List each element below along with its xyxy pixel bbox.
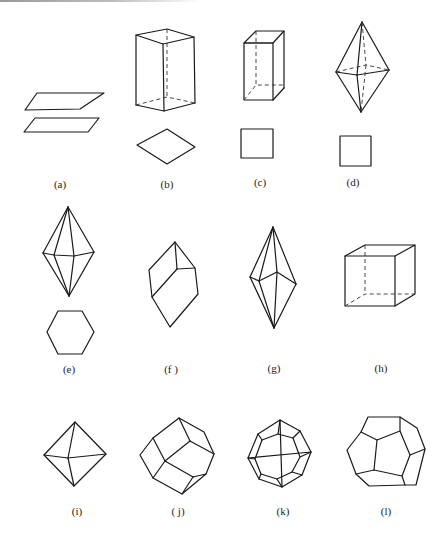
shape-a-pinacoid	[24, 93, 104, 132]
shape-l-pentagonal-dodecahedron	[347, 417, 425, 486]
shape-g-scalenohedron	[250, 227, 296, 328]
shape-i-octahedron	[44, 422, 106, 486]
label-d: (d)	[347, 176, 360, 188]
label-b: (b)	[161, 178, 174, 190]
shape-h-cube	[345, 245, 415, 306]
label-i: (i)	[72, 505, 82, 517]
shape-e-hexagonal-dipyramid	[43, 207, 94, 354]
label-g: (g)	[268, 362, 281, 374]
shape-c-tetragonal-prism	[241, 31, 284, 158]
label-j: ( j)	[171, 505, 184, 517]
shape-f-rhombohedron	[149, 242, 198, 327]
crystal-forms-diagram	[0, 0, 448, 540]
shape-k-trisoctahedron	[248, 420, 311, 487]
label-h: (h)	[375, 362, 388, 374]
label-a: (a)	[54, 178, 66, 190]
label-k: (k)	[277, 505, 290, 517]
label-l: (l)	[381, 505, 391, 517]
shape-d-tetragonal-dipyramid	[336, 22, 389, 166]
label-f: (f )	[164, 363, 178, 375]
shape-j-rhombic-dodecahedron	[140, 418, 214, 494]
label-c: (c)	[254, 176, 266, 188]
shape-b-rhombic-prism	[136, 29, 195, 164]
label-e: (e)	[63, 363, 75, 375]
